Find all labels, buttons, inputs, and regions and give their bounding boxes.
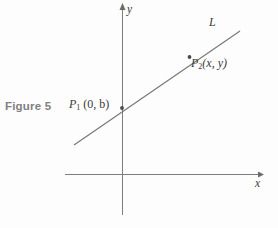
point-label-p1: P1 (0, b) [69, 98, 109, 112]
point-label-p2: P2(x, y) [191, 57, 227, 71]
point-label-p2-coords: (x, y) [202, 56, 227, 70]
figure-caption: Figure 5 [5, 101, 51, 113]
point-label-p1-coords: (0, b) [83, 97, 109, 111]
line-label: L [209, 16, 216, 28]
point-marker-p1 [120, 106, 124, 110]
figure-container: Figure 5 y x L P1 (0, b) P2(x, y) [0, 0, 278, 228]
y-axis-arrowhead [120, 3, 126, 10]
figure-drawing [0, 0, 278, 228]
x-axis-label: x [255, 178, 260, 190]
y-axis-label: y [127, 4, 132, 16]
line-L [74, 31, 240, 145]
